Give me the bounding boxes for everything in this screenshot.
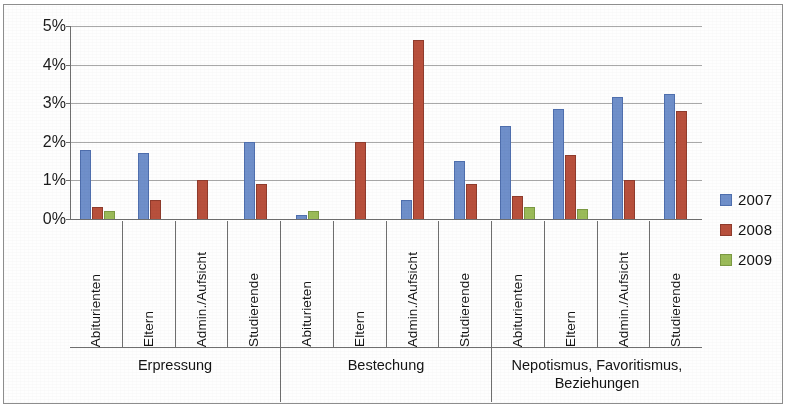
bar-2008-adminaufsicht xyxy=(197,180,208,219)
bar-2007-studierende xyxy=(664,94,675,219)
category-label-cell: Abiturienten xyxy=(70,221,123,347)
bar-2008-studierende xyxy=(676,111,687,219)
bar-2007-abiturieten xyxy=(296,215,307,219)
category-label: Eltern xyxy=(142,308,156,347)
category-label-cell: Eltern xyxy=(545,221,598,347)
category-label-cell: Admin./Aufsicht xyxy=(598,221,651,347)
legend-label: 2008 xyxy=(738,221,772,238)
legend-label: 2009 xyxy=(738,251,772,268)
plot-area xyxy=(70,26,702,220)
bar-group xyxy=(124,26,177,219)
group-label-cell: Bestechung xyxy=(281,348,492,402)
legend-item[interactable]: 2008 xyxy=(720,221,772,238)
bar-group xyxy=(439,26,492,219)
category-label-cell: Abiturienten xyxy=(492,221,545,347)
bar-2008-studierende xyxy=(256,184,267,219)
bar-2008-studierende xyxy=(466,184,477,219)
y-axis-tick-label: 4% xyxy=(43,56,66,74)
category-label: Studierende xyxy=(247,270,261,347)
category-label-cell: Eltern xyxy=(334,221,387,347)
category-axis: AbiturientenElternAdmin./AufsichtStudier… xyxy=(70,221,702,348)
category-label-cell: Admin./Aufsicht xyxy=(176,221,229,347)
group-label: Nepotismus, Favoritismus, Beziehungen xyxy=(496,356,698,392)
category-label-cell: Studierende xyxy=(650,221,702,347)
legend-label: 2007 xyxy=(738,191,772,208)
bar-2007-abiturienten xyxy=(500,126,511,219)
category-label: Abiturienten xyxy=(89,271,103,347)
legend: 200720082009 xyxy=(720,191,772,268)
bar-2007-eltern xyxy=(138,153,149,219)
bar-2009-abiturieten xyxy=(308,211,319,219)
bar-2009-abiturienten xyxy=(104,211,115,219)
category-label: Admin./Aufsicht xyxy=(406,249,420,347)
legend-item[interactable]: 2009 xyxy=(720,251,772,268)
group-label: Bestechung xyxy=(348,356,425,374)
y-axis-tick-label: 5% xyxy=(43,17,66,35)
group-label: Erpressung xyxy=(138,356,212,374)
category-label-cell: Admin./Aufsicht xyxy=(387,221,440,347)
bar-2009-eltern xyxy=(577,209,588,219)
bar-group xyxy=(229,26,282,219)
bar-2007-adminaufsicht xyxy=(612,97,623,219)
group-axis: ErpressungBestechungNepotismus, Favoriti… xyxy=(70,348,702,402)
category-label: Studierende xyxy=(669,270,683,347)
bar-2007-adminaufsicht xyxy=(401,200,412,219)
category-label: Abiturieten xyxy=(300,278,314,347)
bar-group xyxy=(176,26,229,219)
category-label: Admin./Aufsicht xyxy=(617,249,631,347)
bar-columns xyxy=(71,26,702,219)
bar-group xyxy=(386,26,439,219)
bar-group xyxy=(649,26,702,219)
bar-2008-eltern xyxy=(355,142,366,219)
series-2008-swatch xyxy=(720,224,732,236)
bar-2007-abiturienten xyxy=(80,150,91,219)
y-axis-tick-label: 3% xyxy=(43,94,66,112)
bar-group xyxy=(544,26,597,219)
category-label: Abiturienten xyxy=(511,271,525,347)
y-axis-tick-label: 1% xyxy=(43,171,66,189)
bar-group xyxy=(334,26,387,219)
bar-2008-abiturienten xyxy=(92,207,103,219)
gridline xyxy=(71,219,702,220)
bar-2008-eltern xyxy=(565,155,576,219)
bar-2007-studierende xyxy=(454,161,465,219)
bar-2008-adminaufsicht xyxy=(413,40,424,219)
y-axis: 0%1%2%3%4%5% xyxy=(22,5,66,403)
category-label: Eltern xyxy=(564,308,578,347)
bar-group xyxy=(71,26,124,219)
bar-2008-abiturienten xyxy=(512,196,523,219)
legend-item[interactable]: 2007 xyxy=(720,191,772,208)
category-label: Eltern xyxy=(353,308,367,347)
bar-2007-studierende xyxy=(244,142,255,219)
bar-group xyxy=(281,26,334,219)
y-axis-tick xyxy=(66,219,71,220)
bar-2008-eltern xyxy=(150,200,161,219)
bar-2009-abiturienten xyxy=(524,207,535,219)
bar-2007-eltern xyxy=(553,109,564,219)
group-label-cell: Nepotismus, Favoritismus, Beziehungen xyxy=(492,348,702,402)
category-label: Studierende xyxy=(458,270,472,347)
category-label-cell: Abiturieten xyxy=(281,221,334,347)
bar-2008-adminaufsicht xyxy=(624,180,635,219)
chart-container: 0%1%2%3%4%5% AbiturientenElternAdmin./Au… xyxy=(3,4,783,404)
y-axis-tick-label: 2% xyxy=(43,133,66,151)
category-label-cell: Studierende xyxy=(439,221,492,347)
bar-group xyxy=(492,26,545,219)
category-label: Admin./Aufsicht xyxy=(195,249,209,347)
bar-group xyxy=(597,26,650,219)
category-label-cell: Eltern xyxy=(123,221,176,347)
group-label-cell: Erpressung xyxy=(70,348,281,402)
series-2009-swatch xyxy=(720,254,732,266)
category-label-cell: Studierende xyxy=(228,221,281,347)
y-axis-tick-label: 0% xyxy=(43,210,66,228)
series-2007-swatch xyxy=(720,194,732,206)
